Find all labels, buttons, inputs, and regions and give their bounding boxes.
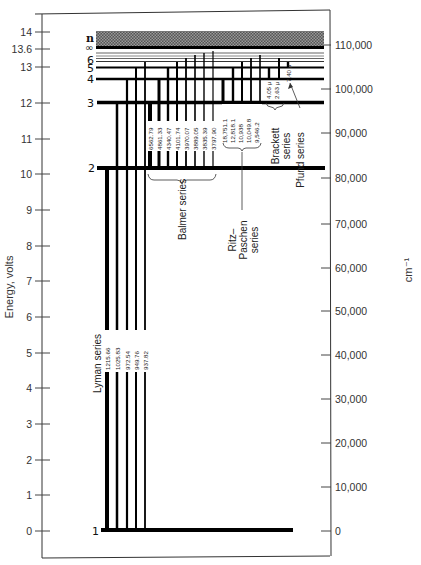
paschen-series-label-2: Paschen [238,221,249,260]
lyman-wl-2: 1025.83 [114,347,121,370]
left-tick-11: 11 [21,133,32,145]
left-tick-13: 13 [20,61,32,73]
balmer-wl-4: 4101.74 [174,127,181,150]
paschen-wl-3: 10,938 [237,124,244,143]
lyman-lines [107,62,145,530]
left-tick-1: 1 [26,489,32,501]
brackett-labels: 4.05 μ 2.63 μ Brackett series [265,81,292,164]
right-tick-40000: 40,000 [335,349,367,361]
left-tick-10: 10 [20,168,32,180]
paschen-series-label-1: Ritz– [227,228,238,251]
balmer-wl-3: 4340.47 [165,127,172,150]
pfund-wl-1: 7.40 μ [285,64,292,82]
left-tick-14: 14 [20,26,32,38]
balmer-wl-5: 3970.07 [183,127,190,150]
right-tick-0: 0 [335,525,341,537]
paschen-labels: 18,751.1 12,818.1 10,938 10,049.8 9,546.… [221,104,262,259]
left-tick-3: 3 [26,418,32,430]
paschen-brace [223,143,261,151]
energy-level-diagram: 0 1 2 3 4 5 6 7 8 9 10 11 12 13 13.6 14 … [0,0,421,565]
right-tick-110000: 110,000 [335,39,372,51]
left-tick-4: 4 [26,382,32,394]
lyman-series-label: Lyman series [92,334,103,393]
left-tick-2: 2 [26,454,32,466]
balmer-wl-8: 3797.90 [210,127,217,150]
balmer-wl-7: 3835.39 [201,127,208,150]
level-3-label: 3 [87,97,94,110]
level-labels: n ∞ 6 5 4 3 2 1 [85,32,99,538]
frame [35,10,331,558]
lyman-labels: 1215.66 1025.83 972.54 949.76 937.82 Lym… [92,330,149,393]
pfund-series-label: Pfund series [295,132,306,188]
balmer-labels: 6562.79 4861.33 4340.47 4101.74 3970.07 … [146,121,218,240]
energy-levels [96,48,325,531]
level-infinity-label: ∞ [85,42,93,53]
left-tick-7: 7 [26,275,32,287]
right-tick-60000: 60,000 [335,262,367,274]
right-axis: 0 10,000 20,000 30,000 40,000 50,000 60,… [321,39,414,537]
left-axis: 0 1 2 3 4 5 6 7 8 9 10 11 12 13 13.6 14 … [3,26,50,537]
lyman-wl-5: 937.82 [142,351,149,370]
left-tick-9: 9 [26,204,32,216]
left-tick-0: 0 [26,525,32,537]
brackett-series-label-1: Brackett [270,127,281,164]
right-tick-70000: 70,000 [335,218,367,230]
paschen-wl-2: 12,818.1 [229,118,236,143]
level-1-label: 1 [92,525,99,538]
right-tick-30000: 30,000 [335,393,367,405]
right-tick-50000: 50,000 [335,305,367,317]
balmer-wl-6: 3889.05 [192,127,199,150]
brackett-series-label-2: series [281,133,292,160]
right-tick-80000: 80,000 [335,172,367,184]
right-tick-10000: 10,000 [335,481,367,493]
brackett-wl-2: 2.63 μ [273,81,280,99]
paschen-wl-4: 10,049.8 [245,118,252,143]
right-tick-100000: 100,000 [335,83,373,95]
right-tick-20000: 20,000 [335,437,367,449]
brackett-wl-1: 4.05 μ [265,81,272,99]
lyman-wl-1: 1215.66 [104,347,111,370]
level-2-label: 2 [88,162,95,175]
left-axis-label: Energy, volts [3,255,15,318]
paschen-wl-1: 18,751.1 [221,118,228,143]
balmer-series-label: Balmer series [177,179,188,240]
balmer-wl-1: 6562.79 [147,127,154,150]
right-axis-label: cm⁻¹ [402,258,414,283]
balmer-wl-2: 4861.33 [156,127,163,150]
continuum-region [96,31,324,46]
lyman-wl-3: 972.54 [124,351,131,370]
level-4-label: 4 [87,73,94,86]
left-tick-5: 5 [26,347,32,359]
paschen-series-label-3: series [249,227,260,254]
left-tick-13-6: 13.6 [12,43,33,55]
left-tick-6: 6 [26,311,32,323]
lyman-wl-4: 949.76 [133,351,140,370]
right-tick-90000: 90,000 [335,127,367,139]
left-tick-8: 8 [26,240,32,252]
left-tick-12: 12 [20,97,32,109]
paschen-wl-5: 9,546.2 [253,122,260,143]
